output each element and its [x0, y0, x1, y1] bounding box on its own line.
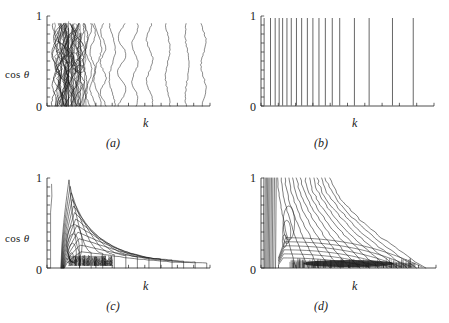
panel-a-ytick-top: 1 [36, 9, 42, 24]
panel-d-ytick-top: 1 [250, 171, 256, 186]
panel-b-label: (b) [296, 136, 346, 151]
panel-d: 1 0 k (d) [224, 160, 449, 323]
panel-a-ylabel: cos θ [5, 68, 29, 80]
panel-d-label: (d) [296, 299, 346, 314]
panel-b-xlabel: k [352, 116, 357, 131]
panel-c-xlabel: k [143, 279, 148, 294]
panel-b: 1 0 k (b) [224, 0, 449, 160]
panel-d-xlabel: k [352, 279, 357, 294]
figure-container: cos θ 1 0 k (a) 1 0 k (b) cos θ 1 0 k (c… [0, 0, 449, 323]
panel-d-ytick-bottom: 0 [250, 263, 256, 278]
panel-c-ylabel: cos θ [5, 232, 29, 244]
panel-a-label: (a) [88, 136, 138, 151]
panel-c: cos θ 1 0 k (c) [0, 160, 225, 323]
panel-b-ytick-top: 1 [250, 9, 256, 24]
panel-a: cos θ 1 0 k (a) [0, 0, 225, 160]
panel-c-label: (c) [88, 299, 138, 314]
panel-c-ytick-bottom: 0 [36, 263, 42, 278]
panel-b-ytick-bottom: 0 [250, 100, 256, 115]
panel-c-ytick-top: 1 [36, 171, 42, 186]
panel-a-xlabel: k [143, 116, 148, 131]
panel-a-ytick-bottom: 0 [36, 100, 42, 115]
